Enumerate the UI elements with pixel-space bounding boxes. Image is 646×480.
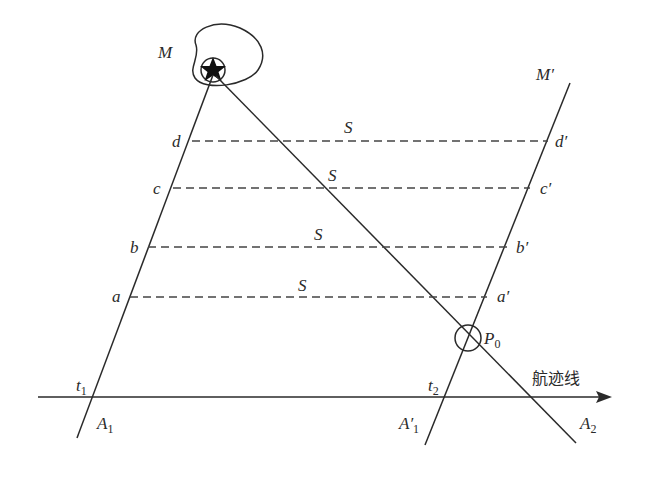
label-S-d: S <box>344 118 353 137</box>
label-A1: A1 <box>96 414 113 436</box>
label-S-b: S <box>314 225 323 244</box>
diagonal-bearing-line <box>216 76 576 443</box>
right-position-line <box>425 83 570 445</box>
navigation-diagram: M M′ d c b a d′ c′ b′ a′ S S S S P0 t1 t… <box>0 0 646 480</box>
label-a: a <box>112 287 121 306</box>
label-M: M <box>157 43 173 62</box>
label-S-c: S <box>328 166 337 185</box>
label-A2: A2 <box>579 414 596 436</box>
label-t2: t2 <box>428 376 439 398</box>
label-c: c <box>153 179 161 198</box>
label-d-prime: d′ <box>555 132 568 151</box>
label-M-prime: M′ <box>535 65 554 84</box>
label-b-prime: b′ <box>516 238 529 257</box>
label-P0: P0 <box>483 329 500 351</box>
label-A1-prime: A′1 <box>398 414 419 436</box>
left-position-line <box>77 75 213 438</box>
label-b: b <box>130 238 139 257</box>
label-d: d <box>172 132 181 151</box>
label-track-line: 航迹线 <box>532 369 580 388</box>
label-a-prime: a′ <box>497 287 510 306</box>
label-S-a: S <box>298 276 307 295</box>
label-c-prime: c′ <box>540 179 552 198</box>
label-t1: t1 <box>76 376 87 398</box>
